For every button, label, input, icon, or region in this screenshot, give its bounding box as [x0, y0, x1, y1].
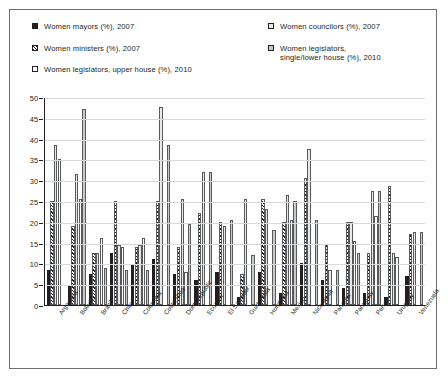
legend-item[interactable]: Women legislators, upper house (%), 2010 — [32, 65, 192, 75]
plot-area: 05101520253035404550 ArgentinaBoliviaBra… — [10, 90, 436, 370]
y-axis-tick-label: 15 — [30, 239, 38, 248]
legend-item[interactable]: Women legislators, single/lower house (%… — [268, 44, 381, 63]
legend-label: Women legislators, single/lower house (%… — [280, 44, 381, 63]
gridline — [45, 264, 425, 265]
legend-label: Women mayors (%), 2007 — [44, 22, 134, 32]
dotted-square-icon — [268, 23, 274, 29]
y-axis-tick-mark — [39, 181, 43, 182]
x-axis-tick: Uruguay — [383, 306, 404, 370]
bar[interactable] — [378, 191, 381, 305]
bar[interactable] — [336, 270, 339, 305]
y-axis-tick-mark — [39, 306, 43, 307]
bar[interactable] — [230, 220, 233, 305]
legend-label: Women legislators, upper house (%), 2010 — [44, 65, 192, 75]
y-axis-tick-mark — [39, 160, 43, 161]
bar[interactable] — [315, 220, 318, 305]
x-axis-tick: Nicaragua — [298, 306, 319, 370]
y-axis-tick-label: 45 — [30, 114, 38, 123]
x-axis-tick: Ecuador — [192, 306, 213, 370]
x-axis-tick: Dom Republic — [171, 306, 192, 370]
x-axis-tick: Mexico — [277, 306, 298, 370]
bar[interactable] — [167, 145, 170, 305]
x-axis-tick: Argentina — [44, 306, 65, 370]
legend-column-left: Women mayors (%), 2007Women ministers (%… — [32, 22, 192, 87]
bar[interactable] — [307, 149, 310, 305]
y-axis-tick-mark — [39, 285, 43, 286]
y-axis-tick-label: 10 — [30, 260, 38, 269]
y-axis-tick-label: 30 — [30, 177, 38, 186]
x-axis-tick: Bolivia — [65, 306, 86, 370]
legend-item[interactable]: Women ministers (%), 2007 — [32, 44, 192, 54]
gridline — [45, 181, 425, 182]
x-axis-labels: ArgentinaBoliviaBrazilChileColombiaCosta… — [44, 306, 425, 370]
y-axis-tick-label: 50 — [30, 94, 38, 103]
legend-item[interactable]: Women mayors (%), 2007 — [32, 22, 192, 32]
bar[interactable] — [251, 255, 254, 305]
y-axis-tick-mark — [39, 244, 43, 245]
bar[interactable] — [357, 253, 360, 305]
x-axis-tick: Peru — [362, 306, 383, 370]
chart-legend: Women mayors (%), 2007Women ministers (%… — [10, 10, 436, 90]
solid-black-square-icon — [32, 23, 38, 29]
legend-column-right: Women councilors (%), 2007Women legislat… — [268, 22, 381, 75]
bar[interactable] — [272, 230, 275, 305]
gridline — [45, 223, 425, 224]
y-axis-tick-label: 0 — [34, 302, 38, 311]
x-axis-tick: Venezuela — [404, 306, 425, 370]
bar[interactable] — [293, 201, 296, 305]
y-axis-tick-label: 35 — [30, 156, 38, 165]
x-axis-tick: Honduras — [256, 306, 277, 370]
bar[interactable] — [159, 107, 162, 305]
gridline — [45, 160, 425, 161]
y-axis-tick-mark — [39, 98, 43, 99]
gridline — [45, 244, 425, 245]
x-axis-tick: Costa Rica — [150, 306, 171, 370]
gridline — [45, 140, 425, 141]
y-axis: 05101520253035404550 — [10, 90, 44, 306]
legend-label: Women ministers (%), 2007 — [44, 44, 140, 54]
x-axis-tick: Guatemala — [235, 306, 256, 370]
x-axis-tick: Colombia — [129, 306, 150, 370]
y-axis-tick-label: 5 — [34, 281, 38, 290]
x-axis-tick: Brazil — [86, 306, 107, 370]
legend-label: Women councilors (%), 2007 — [280, 22, 380, 32]
y-axis-tick-label: 40 — [30, 135, 38, 144]
legend-item[interactable]: Women councilors (%), 2007 — [268, 22, 381, 32]
y-axis-tick-mark — [39, 119, 43, 120]
x-axis-tick: El Salvador — [213, 306, 234, 370]
bar[interactable] — [223, 226, 226, 305]
y-axis-tick-label: 25 — [30, 198, 38, 207]
y-axis-tick-mark — [39, 264, 43, 265]
x-axis-tick: Panama — [319, 306, 340, 370]
gray-square-icon — [268, 45, 274, 51]
x-axis-tick: Paraguay — [340, 306, 361, 370]
gridline — [45, 119, 425, 120]
gridline — [45, 202, 425, 203]
gridline — [45, 285, 425, 286]
plot-grid — [44, 98, 425, 306]
y-axis-tick-mark — [39, 140, 43, 141]
y-axis-tick-mark — [39, 202, 43, 203]
y-axis-tick-label: 20 — [30, 218, 38, 227]
x-axis-tick: Chile — [108, 306, 129, 370]
chart-frame: Women mayors (%), 2007Women ministers (%… — [9, 9, 437, 369]
gridline — [45, 98, 425, 99]
y-axis-tick-mark — [39, 223, 43, 224]
diagonal-hatch-square-icon — [32, 45, 38, 51]
white-square-icon — [32, 66, 38, 72]
